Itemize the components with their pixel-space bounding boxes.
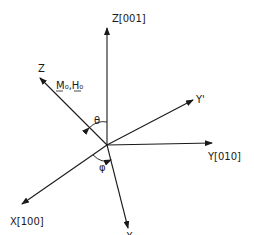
x-prime-label: X [126, 231, 133, 235]
y010-label: Y[010] [207, 151, 241, 162]
x-prime-axis [107, 145, 128, 228]
phi-label: φ [99, 162, 106, 173]
phi-arc [93, 155, 111, 161]
theta-label: θ [94, 115, 100, 126]
x100-label: X[100] [10, 216, 44, 227]
y-prime-label: Y' [195, 94, 205, 105]
z-prime-label: Z [38, 63, 45, 74]
axes-svg: Z[001] Z M₀,H₀ Y' Y[010] X[100] X θ φ [0, 0, 254, 235]
x100-axis [22, 145, 107, 204]
z001-label: Z[001] [112, 13, 146, 24]
coordinate-diagram: Z[001] Z M₀,H₀ Y' Y[010] X[100] X θ φ [0, 0, 254, 235]
vector-label: M₀,H₀ [56, 80, 83, 91]
y010-axis [107, 143, 212, 145]
y-prime-axis [107, 100, 193, 145]
